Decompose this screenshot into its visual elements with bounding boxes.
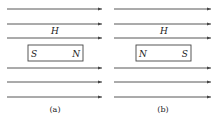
field-lines (114, 9, 211, 97)
magnet-right-pole: N (71, 49, 81, 59)
panel-b: H N S (b) (114, 9, 211, 114)
magnet-right-pole: S (182, 49, 188, 59)
panel-caption: (b) (157, 105, 168, 114)
diagram-canvas: H S N (a) H N S (b) (0, 0, 214, 128)
magnet-left-pole: N (138, 49, 148, 59)
panel-a: H S N (a) (7, 9, 102, 114)
field-lines (7, 9, 102, 97)
field-label: H (50, 26, 59, 36)
panel-caption: (a) (49, 105, 60, 114)
magnet-left-pole: S (31, 49, 37, 59)
field-label: H (159, 26, 168, 36)
